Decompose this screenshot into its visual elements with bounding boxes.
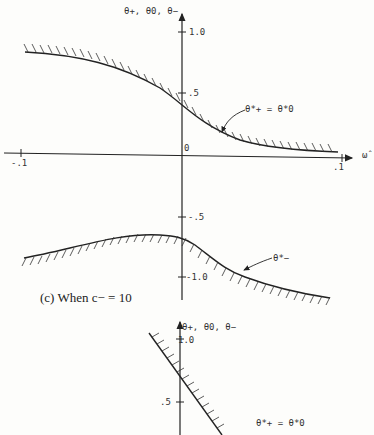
- annotation-theta-minus: θ*−: [273, 253, 289, 263]
- plot-canvas: [0, 0, 374, 435]
- tick-label-xm1: -.1: [11, 158, 27, 168]
- y-axis-label: θ+, θ0, θ−: [124, 6, 178, 16]
- tick-label-0: 0: [184, 143, 189, 153]
- tick-label-2-05: .5: [160, 397, 171, 407]
- curve-theta-minus: [24, 235, 330, 298]
- x-axis: [4, 153, 352, 158]
- x-axis-label: ω̂: [362, 150, 367, 160]
- tick-label-1: 1.0: [189, 27, 205, 37]
- annotation-arrow-minus: [244, 258, 272, 270]
- hatching-upper: [24, 44, 332, 152]
- curve-theta-plus-2: [149, 333, 222, 435]
- tick-label-m05: -.5: [188, 212, 204, 222]
- tick-label-2-1: 1.0: [178, 335, 194, 345]
- hatching-2: [152, 333, 224, 428]
- annotation-theta-plus-2: θ*+ = θ*0: [256, 418, 305, 428]
- tick-label-x1: .1: [333, 162, 344, 172]
- annotation-theta-plus: θ*+ = θ*0: [245, 104, 294, 114]
- tick-label-m1: -1.0: [186, 272, 208, 282]
- tick-label-05: .5: [188, 88, 199, 98]
- y-axis-label-2: θ+, θ0, θ−: [182, 322, 236, 332]
- figure-caption: (c) When c− = 10: [40, 290, 132, 306]
- annotation-arrow-plus: [222, 110, 245, 132]
